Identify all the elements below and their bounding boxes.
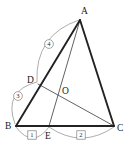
vertex-label-c: C [117,123,123,133]
arc-segment-da [37,20,79,82]
ratio-badge-ec: 2 [77,131,85,139]
geometry-canvas: A B C D E O 1 2 3 4 [0,0,128,147]
ratio-badge-da: 4 [45,40,54,49]
ratio-badge-ec-label: 2 [79,131,82,138]
vertex-label-e: E [45,131,51,141]
vertex-label-a: A [81,6,88,16]
vertex-label-d: D [27,75,34,85]
vertex-label-b: B [5,121,11,131]
geometry-diagram: A B C D E O 1 2 3 4 [0,0,128,147]
thick-segment-group [16,20,114,126]
thin-segment-group [38,20,114,126]
ratio-badge-be: 1 [28,131,36,139]
ratio-badge-be-label: 1 [30,131,33,138]
segment-a-to-e [49,20,80,126]
ratio-badge-bd: 3 [14,92,23,101]
segment-b-to-a [16,20,80,126]
arc-segment-bd [12,82,37,124]
vertex-label-o: O [62,86,69,96]
